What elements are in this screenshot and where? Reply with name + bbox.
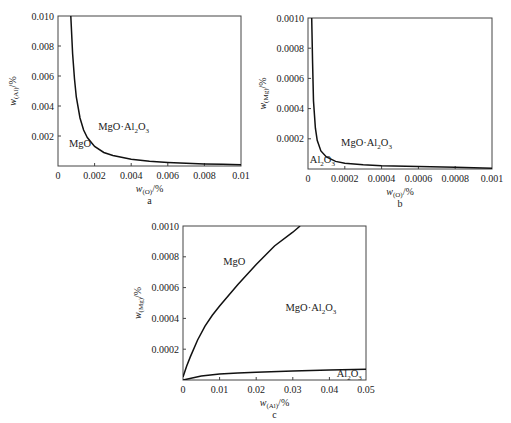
phase-region-label: MgO·Al2​O3​ (341, 137, 392, 151)
x-tick-label: 0.02 (247, 384, 265, 395)
phase-region-label: MgO (69, 138, 92, 149)
panel-label: c (272, 409, 277, 420)
x-tick-label: 0.0006 (405, 173, 433, 184)
x-tick-label: 0.006 (157, 170, 180, 181)
phase-region-label: MgO (223, 256, 246, 267)
y-tick-label: 0.008 (32, 41, 55, 52)
y-tick-label: 0.0008 (277, 43, 305, 54)
x-tick-label: 0.0008 (441, 173, 469, 184)
plot-frame (308, 18, 492, 169)
y-tick-label: 0.002 (32, 131, 55, 142)
x-tick-label: 0.0002 (331, 173, 359, 184)
x-tick-label: 0.002 (83, 170, 106, 181)
plot-frame (183, 226, 366, 380)
x-tick-label: 0.03 (284, 384, 302, 395)
y-tick-label: 0.0010 (277, 13, 305, 24)
chart-b-al2o3-mg-o-diagram: 00.00020.00040.00060.00080.0010.00020.00… (257, 13, 503, 210)
chart-c-mg-al-diagram: 00.010.020.030.040.050.00020.00040.00060… (132, 221, 375, 421)
y-axis-label: w(Al)/% (7, 76, 20, 105)
y-tick-label: 0.0004 (277, 103, 305, 114)
x-tick-label: 0.01 (211, 384, 229, 395)
y-axis-label: w(Mg)/% (132, 287, 145, 319)
y-tick-label: 0.010 (32, 11, 55, 22)
x-tick-label: 0 (306, 173, 311, 184)
phase-region-label: MgO·Al2​O3​ (98, 121, 149, 135)
figure-canvas: 00.0020.0040.0060.0080.010.0020.0040.006… (0, 0, 511, 423)
x-tick-label: 0 (56, 170, 61, 181)
y-tick-label: 0.0002 (277, 133, 305, 144)
phase-boundary-curve (183, 226, 300, 377)
y-tick-label: 0.0006 (152, 282, 180, 293)
x-tick-label: 0.008 (193, 170, 216, 181)
x-tick-label: 0.0004 (368, 173, 396, 184)
y-tick-label: 0.004 (32, 101, 55, 112)
y-tick-label: 0.006 (32, 71, 55, 82)
x-tick-label: 0.001 (481, 173, 504, 184)
phase-region-label: MgO·Al2​O3​ (285, 302, 336, 316)
x-tick-label: 0.05 (357, 384, 375, 395)
y-tick-label: 0.0004 (152, 313, 180, 324)
chart-a-mgo-al-o-diagram: 00.0020.0040.0060.0080.010.0020.0040.006… (7, 11, 250, 207)
phase-boundary-curve (71, 16, 241, 165)
x-tick-label: 0.01 (232, 170, 250, 181)
panel-label: b (398, 198, 403, 209)
panel-label: a (147, 195, 152, 206)
y-axis-label: w(Mg)/% (257, 77, 270, 109)
y-tick-label: 0.0002 (152, 344, 180, 355)
x-tick-label: 0.04 (321, 384, 339, 395)
phase-boundary-curve (312, 18, 492, 168)
y-tick-label: 0.0010 (152, 221, 180, 232)
phase-region-label: Al2​O3​ (310, 154, 336, 168)
y-tick-label: 0.0006 (277, 73, 305, 84)
x-tick-label: 0 (181, 384, 186, 395)
y-tick-label: 0.0008 (152, 251, 180, 262)
x-tick-label: 0.004 (120, 170, 143, 181)
